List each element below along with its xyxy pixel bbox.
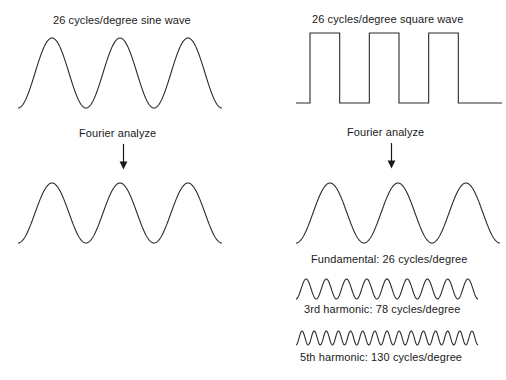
output-sine-wave xyxy=(18,181,222,245)
fourier-analysis-figure: 26 cycles/degree sine wave Fourier analy… xyxy=(0,0,506,380)
left-operation-label: Fourier analyze xyxy=(79,127,156,140)
fifth-harmonic-wave xyxy=(296,328,478,348)
input-sine-wave xyxy=(18,36,222,110)
third-harmonic-label: 3rd harmonic: 78 cycles/degree xyxy=(304,303,460,316)
third-harmonic-wave xyxy=(296,277,478,301)
fundamental-wave xyxy=(296,181,500,245)
left-fourier-arrow xyxy=(117,144,130,170)
right-operation-label: Fourier analyze xyxy=(347,126,424,139)
left-input-label: 26 cycles/degree sine wave xyxy=(53,14,191,27)
fifth-harmonic-label: 5th harmonic: 130 cycles/degree xyxy=(300,351,462,364)
input-square-wave xyxy=(296,30,502,106)
right-input-label: 26 cycles/degree square wave xyxy=(312,13,463,26)
right-fourier-arrow xyxy=(385,143,398,169)
fundamental-label: Fundamental: 26 cycles/degree xyxy=(311,253,467,266)
